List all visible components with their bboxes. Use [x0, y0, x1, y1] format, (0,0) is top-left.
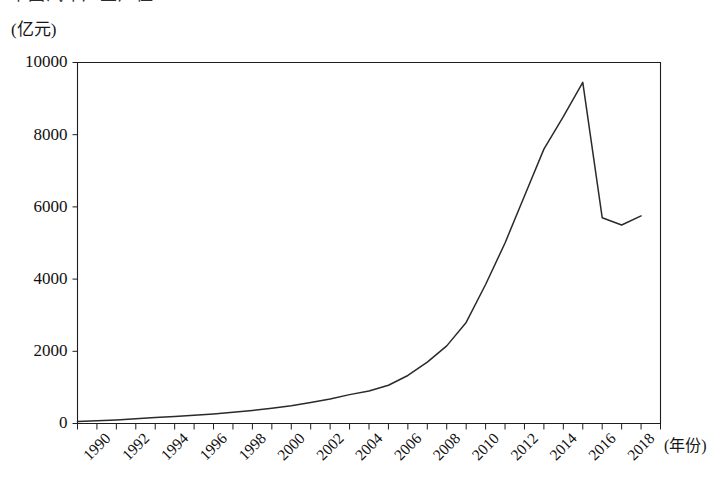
- x-tick-label: 1998: [235, 429, 269, 463]
- x-tick-label: 1992: [118, 429, 152, 463]
- x-tick-label: 2012: [507, 429, 541, 463]
- x-tick-label: 2010: [468, 429, 502, 463]
- plot-svg: 0200040006000800010000 19901992199419961…: [0, 0, 722, 493]
- x-tick-label: 1990: [80, 429, 114, 463]
- x-tick-label: 2006: [391, 429, 425, 463]
- x-tick-label: 2008: [429, 429, 463, 463]
- y-tick-label: 4000: [34, 269, 68, 288]
- y-tick-label: 2000: [34, 341, 68, 360]
- axis-frame: [78, 63, 661, 424]
- x-tick-label: 2002: [313, 429, 347, 463]
- x-axis-unit-label: (年份): [664, 437, 707, 455]
- x-tick-label: 1996: [196, 429, 230, 463]
- x-tick-label: 2000: [274, 429, 308, 463]
- y-tick-label: 6000: [34, 197, 68, 216]
- x-tick-label: 2014: [546, 429, 580, 463]
- plot-frame: [78, 63, 661, 424]
- y-tick-label: 0: [59, 413, 68, 432]
- x-axis-ticks: 1990199219941996199820002002200420062008…: [78, 424, 661, 464]
- x-tick-label: 2018: [624, 429, 658, 463]
- data-series-group: [78, 82, 642, 421]
- x-tick-label: 2004: [352, 429, 386, 463]
- data-line: [78, 82, 642, 421]
- y-tick-label: 8000: [34, 125, 68, 144]
- x-tick-label: 1994: [157, 429, 191, 463]
- y-tick-label: 10000: [25, 52, 68, 71]
- x-tick-label: 2016: [585, 429, 619, 463]
- line-chart-figure: 中国汽车产业产值 (亿元) 0200040006000800010000 199…: [0, 0, 722, 493]
- y-axis-ticks: 0200040006000800010000: [25, 52, 78, 432]
